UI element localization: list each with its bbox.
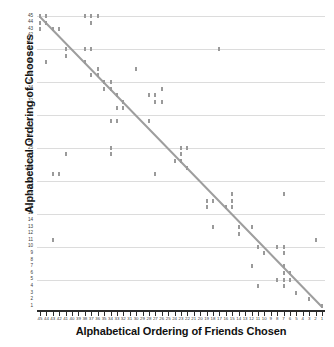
x-tick-label: 20 [198, 316, 203, 321]
y-tick-label: 10 [28, 244, 33, 249]
y-tick-label: 42 [28, 33, 33, 38]
data-point [110, 119, 112, 123]
data-point [52, 27, 54, 31]
x-tick-label: 44 [44, 316, 49, 321]
y-tick-label: 19 [28, 185, 33, 190]
data-point [315, 238, 317, 242]
data-point [263, 251, 265, 255]
x-tick-label: 19 [204, 316, 209, 321]
y-tick-label: 30 [28, 113, 33, 118]
x-tick-label: 43 [50, 316, 55, 321]
data-point [231, 192, 233, 196]
data-point [116, 106, 118, 110]
data-point [122, 106, 124, 110]
data-point [154, 100, 156, 104]
data-point [186, 146, 188, 150]
y-tick-label: 1 [30, 304, 33, 309]
data-point [225, 205, 227, 209]
data-points-layer [37, 12, 325, 310]
x-tick-label: 13 [243, 316, 248, 321]
data-point [251, 225, 253, 229]
y-tick-label: 11 [28, 238, 33, 243]
data-point [321, 304, 323, 308]
x-tick-label: 9 [269, 316, 271, 321]
y-tick-label: 8 [30, 258, 33, 263]
y-tick-label: 16 [28, 205, 33, 210]
y-tick-label: 44 [28, 20, 33, 25]
x-axis-title: Alphabetical Ordering of Friends Chosen [37, 325, 325, 337]
data-point [52, 172, 54, 176]
data-point [45, 60, 47, 64]
data-point [122, 100, 124, 104]
y-tick-label: 4 [30, 284, 33, 289]
data-point [90, 14, 92, 18]
y-tick-label: 43 [28, 27, 33, 32]
data-point [295, 291, 297, 295]
x-tick-label: 31 [127, 316, 132, 321]
data-point [283, 278, 285, 282]
data-point [52, 238, 54, 242]
y-tick-label: 22 [28, 165, 33, 170]
data-point [154, 172, 156, 176]
plot-area [37, 12, 325, 310]
scatter-chart: Alphabetical Ordering of Choosers 454443… [0, 0, 334, 347]
y-tick-label: 39 [28, 53, 33, 58]
x-tick-label: 25 [166, 316, 171, 321]
data-point [206, 199, 208, 203]
x-tick-label: 7 [282, 316, 284, 321]
data-point [283, 271, 285, 275]
x-tick-label: 26 [159, 316, 164, 321]
x-tick-label: 16 [223, 316, 228, 321]
data-point [276, 245, 278, 249]
data-point [283, 251, 285, 255]
y-tick-label: 38 [28, 60, 33, 65]
data-point [283, 264, 285, 268]
y-tick-label: 14 [28, 218, 33, 223]
data-point [161, 87, 163, 91]
x-tick-label: 23 [179, 316, 184, 321]
data-point [45, 14, 47, 18]
x-tick-label: 39 [76, 316, 81, 321]
data-point [148, 93, 150, 97]
y-tick-label: 23 [28, 159, 33, 164]
data-point [257, 245, 259, 249]
data-point [186, 166, 188, 170]
data-point [238, 232, 240, 236]
y-tick-label: 24 [28, 152, 33, 157]
y-tick-label: 6 [30, 271, 33, 276]
y-tick-label: 12 [28, 231, 33, 236]
x-tick-label: 36 [95, 316, 100, 321]
x-tick-label: 34 [108, 316, 113, 321]
data-point [116, 119, 118, 123]
x-axis-tick-labels: 4544434241403938373635343332313029282726… [37, 316, 325, 324]
x-tick-label: 1 [321, 316, 323, 321]
y-tick-label: 33 [28, 93, 33, 98]
data-point [161, 100, 163, 104]
data-point [65, 47, 67, 51]
x-tick-label: 8 [276, 316, 278, 321]
y-tick-label: 37 [28, 66, 33, 71]
x-tick-label: 6 [289, 316, 291, 321]
x-tick-label: 11 [256, 316, 261, 321]
x-tick-label: 37 [89, 316, 94, 321]
data-point [90, 21, 92, 25]
data-point [206, 205, 208, 209]
data-point [84, 14, 86, 18]
x-tick-label: 5 [295, 316, 297, 321]
data-point [212, 199, 214, 203]
y-tick-label: 27 [28, 132, 33, 137]
y-tick-label: 36 [28, 73, 33, 78]
x-tick-label: 32 [121, 316, 126, 321]
data-point [110, 152, 112, 156]
y-tick-label: 15 [28, 211, 33, 216]
y-tick-label: 7 [30, 264, 33, 269]
x-tick-label: 27 [153, 316, 158, 321]
y-tick-label: 32 [28, 99, 33, 104]
y-tick-label: 31 [28, 106, 33, 111]
data-point [39, 27, 41, 31]
data-point [231, 205, 233, 209]
y-tick-label: 34 [28, 86, 33, 91]
y-tick-label: 26 [28, 139, 33, 144]
x-tick-label: 40 [70, 316, 75, 321]
y-tick-label: 9 [30, 251, 33, 256]
